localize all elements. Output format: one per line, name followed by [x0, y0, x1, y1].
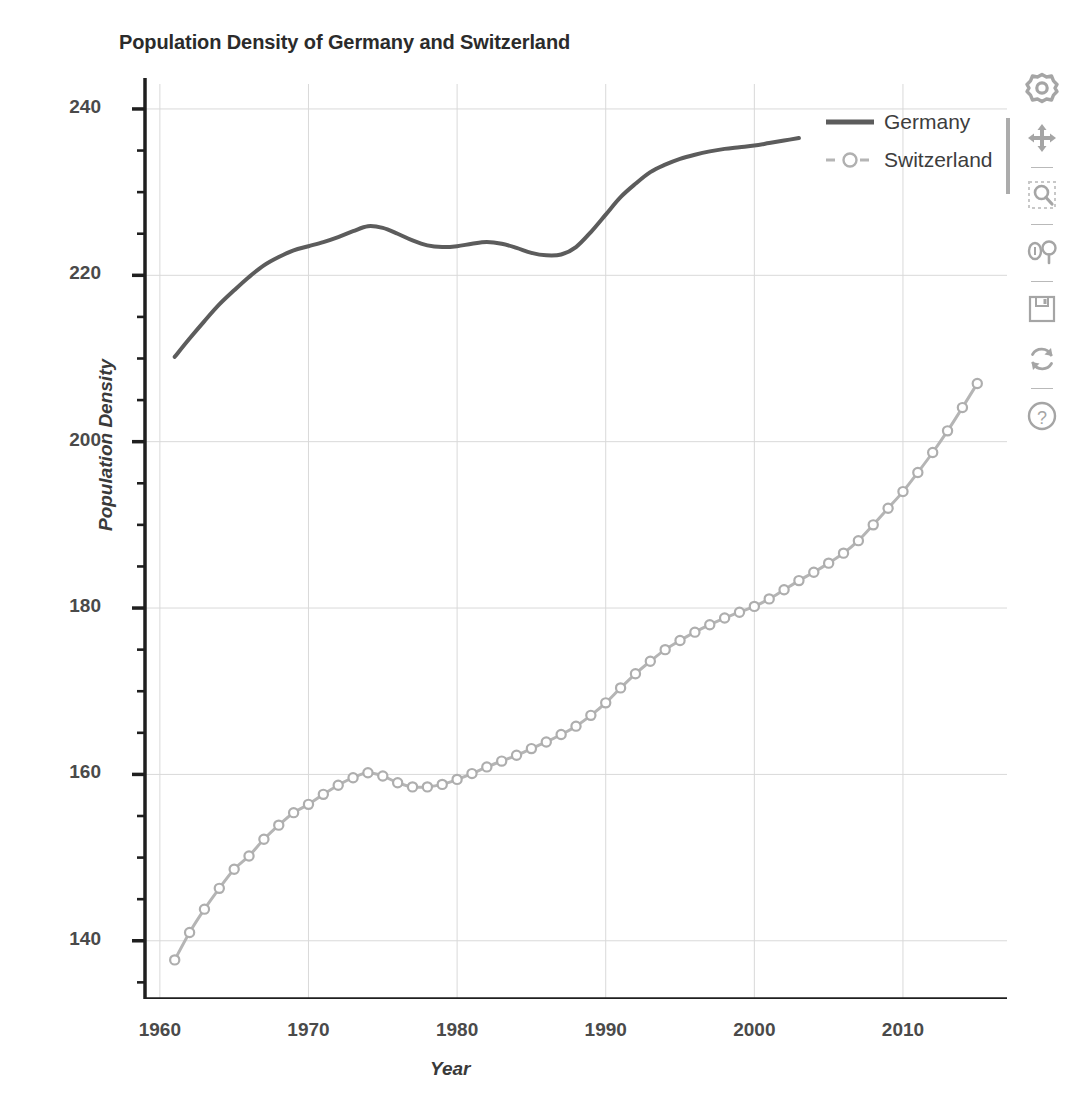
refresh-icon[interactable] — [1020, 337, 1064, 381]
grid-lines — [145, 84, 1007, 999]
y-tick-label: 240 — [41, 96, 101, 118]
y-tick-label: 180 — [41, 595, 101, 617]
chart-figure: Population Density of Germany and Switze… — [0, 0, 1086, 1111]
y-tick-label: 200 — [41, 429, 101, 451]
zoom-rect-icon[interactable] — [1020, 173, 1064, 217]
x-tick-label: 1970 — [268, 1019, 348, 1041]
chart-legend: Germany Switzerland — [824, 103, 994, 179]
plot-area[interactable] — [119, 70, 1007, 999]
toolbar-divider — [1031, 388, 1053, 389]
major-ticks — [132, 109, 903, 999]
x-axis-label: Year — [430, 1058, 471, 1080]
series-switzerland — [170, 379, 982, 965]
y-tick-label: 160 — [41, 761, 101, 783]
zoom-inout-icon[interactable] — [1020, 230, 1064, 274]
y-tick-label: 140 — [41, 928, 101, 950]
toolbar-divider — [1031, 167, 1053, 168]
axis-spines — [145, 78, 1007, 999]
minor-ticks — [137, 151, 992, 999]
x-tick-label: 2000 — [714, 1019, 794, 1041]
legend-label-germany: Germany — [884, 110, 970, 134]
legend-label-switzerland: Switzerland — [884, 148, 993, 172]
legend-item-switzerland[interactable]: Switzerland — [824, 141, 994, 179]
toolbar-divider — [1031, 224, 1053, 225]
plot-canvas — [119, 70, 1007, 999]
svg-text:?: ? — [1037, 408, 1047, 428]
settings-icon[interactable] — [1020, 66, 1064, 110]
legend-swatch-switzerland — [824, 150, 876, 170]
legend-swatch-germany — [824, 112, 876, 132]
x-tick-label: 1990 — [566, 1019, 646, 1041]
move-icon[interactable] — [1020, 116, 1064, 160]
chart-toolbar: ? — [1014, 66, 1070, 444]
toolbar-scrollbar[interactable] — [1006, 118, 1010, 194]
x-tick-label: 2010 — [863, 1019, 943, 1041]
series-germany — [175, 138, 799, 357]
data-series — [170, 138, 982, 964]
x-tick-label: 1980 — [417, 1019, 497, 1041]
help-icon[interactable]: ? — [1020, 394, 1064, 438]
toolbar-divider — [1031, 281, 1053, 282]
x-tick-label: 1960 — [120, 1019, 200, 1041]
y-tick-label: 220 — [41, 262, 101, 284]
save-icon[interactable] — [1020, 287, 1064, 331]
legend-item-germany[interactable]: Germany — [824, 103, 994, 141]
chart-title: Population Density of Germany and Switze… — [119, 31, 570, 54]
